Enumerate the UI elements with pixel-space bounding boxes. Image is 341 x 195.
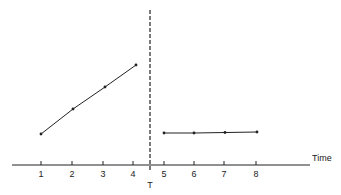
series-after [164, 132, 257, 133]
svg-text:1: 1 [38, 169, 43, 179]
chart: 1 2 3 4 5 6 7 8 Time T [0, 0, 341, 195]
x-tick-labels: 1 2 3 4 5 6 7 8 [38, 169, 258, 179]
svg-text:3: 3 [100, 169, 105, 179]
x-ticks [41, 161, 256, 165]
intervention-label: T [147, 180, 153, 190]
svg-text:4: 4 [130, 169, 135, 179]
svg-text:6: 6 [191, 169, 196, 179]
svg-text:8: 8 [253, 169, 258, 179]
series-before [41, 65, 136, 134]
svg-text:2: 2 [69, 169, 74, 179]
x-axis-label: Time [312, 153, 332, 163]
svg-text:7: 7 [221, 169, 226, 179]
svg-text:5: 5 [161, 169, 166, 179]
